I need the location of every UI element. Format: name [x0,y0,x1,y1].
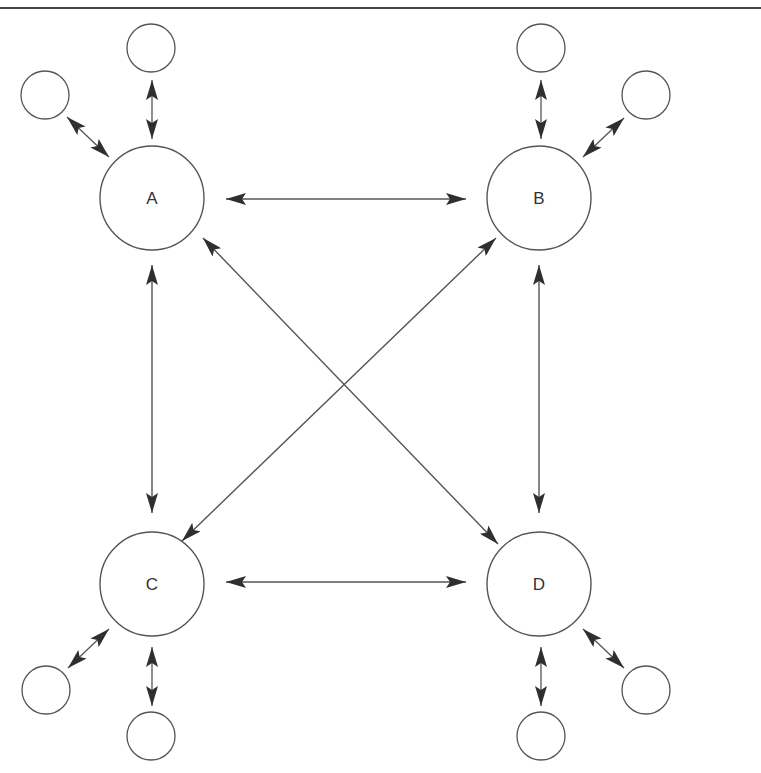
satellite-node-c-left [22,666,70,714]
hub-node-c: C [100,532,204,636]
edge-b-bright-arrow [583,118,624,157]
satellite-node-a-left [21,71,69,119]
hub-node-a: A [100,146,204,250]
satellite-node-d-bottom [517,712,565,760]
edge-a-d-arrow [203,238,498,544]
edge-b-c-arrow [182,238,496,541]
hub-label: B [533,189,544,208]
satellite-node-c-bottom [127,712,175,760]
edge-c-cleft-arrow [68,629,109,668]
hub-node-d: D [487,532,591,636]
satellite-node-a-top [127,24,175,72]
satellite-node-b-top [517,24,565,72]
network-diagram: ABCD [0,0,761,773]
satellite-node-d-right [622,666,670,714]
hub-label: C [146,575,158,594]
satellite-node-b-right [622,71,670,119]
hub-label: D [533,575,545,594]
satellites-group [21,24,670,760]
edge-a-aleft-arrow [67,117,109,157]
hubs-group: ABCD [100,146,591,636]
hub-node-b: B [487,146,591,250]
hub-label: A [146,189,158,208]
edge-d-dright-arrow [583,629,624,668]
